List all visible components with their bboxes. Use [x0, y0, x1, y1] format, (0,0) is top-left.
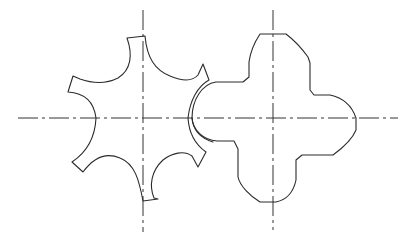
technical-drawing	[0, 0, 415, 242]
background	[0, 0, 415, 242]
